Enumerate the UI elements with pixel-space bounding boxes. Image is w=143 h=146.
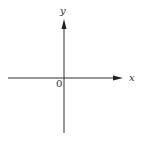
- x-axis-arrow-icon: [113, 76, 123, 81]
- y-axis-label: y: [59, 5, 66, 16]
- y-axis-arrow-icon: [62, 19, 67, 29]
- coordinate-axes-diagram: x y 0: [0, 0, 143, 146]
- origin-label: 0: [56, 78, 62, 89]
- x-axis-label: x: [129, 72, 135, 83]
